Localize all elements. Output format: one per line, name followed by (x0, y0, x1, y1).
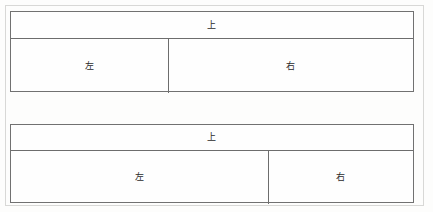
bottom-diagram-cell-right-label: 右 (336, 173, 346, 182)
bottom-diagram-cell-left-label: 左 (135, 173, 145, 182)
top-diagram: 上 左 右 (10, 11, 414, 92)
bottom-diagram: 上 左 右 (10, 124, 414, 203)
top-diagram-cell-right-label: 右 (286, 62, 296, 71)
top-diagram-cell-left: 左 (11, 39, 169, 93)
bottom-diagram-cell-top: 上 (11, 125, 413, 150)
top-diagram-cell-right: 右 (169, 39, 413, 93)
bottom-diagram-cell-left: 左 (11, 151, 269, 204)
top-diagram-header-row: 上 (11, 12, 413, 39)
top-diagram-body-row: 左 右 (11, 39, 413, 93)
bottom-diagram-body-row: 左 右 (11, 151, 413, 204)
bottom-diagram-cell-right: 右 (269, 151, 413, 204)
diagram-page: 上 左 右 上 左 右 (0, 0, 433, 212)
top-diagram-cell-top-label: 上 (207, 21, 217, 30)
top-diagram-cell-left-label: 左 (85, 62, 95, 71)
bottom-diagram-header-row: 上 (11, 125, 413, 151)
top-diagram-cell-top: 上 (11, 12, 413, 38)
bottom-diagram-cell-top-label: 上 (207, 133, 217, 142)
